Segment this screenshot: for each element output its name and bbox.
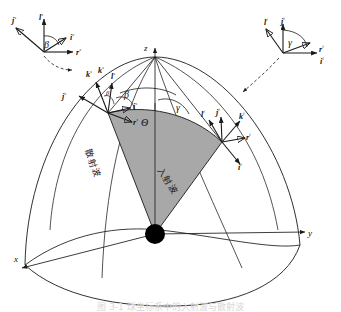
angle-label-beta-sphere: β xyxy=(124,90,129,100)
vector-label-l-s: ls xyxy=(111,72,115,81)
axis-label-z: z xyxy=(144,44,148,53)
inset-vector-label-l-s: ls xyxy=(39,13,43,22)
angle-label-beta-small: β xyxy=(106,90,109,97)
origin-dot xyxy=(145,224,165,244)
vector-label-r-i: ri xyxy=(246,133,251,142)
angle-label-gamma-inset: γ xyxy=(288,38,292,48)
vector-label-k-s: ks xyxy=(86,70,92,79)
inset-vector-label-k-s: ks xyxy=(98,66,104,75)
vector-label-k-i: ki xyxy=(239,112,244,121)
inset-vector-label-r-i: ri xyxy=(319,45,324,54)
inset-vector-label-j-s: js xyxy=(12,16,16,25)
figure-caption: 图 3-1 球坐标系中的入射波与散射波 xyxy=(0,300,341,312)
inset-vector-label-i-s: is xyxy=(70,33,74,42)
vector-label-i-s: is xyxy=(133,102,137,111)
inset-vector-label-j-i: ji xyxy=(281,17,285,26)
axis-label-x: x xyxy=(14,255,18,264)
angle-label-beta-inset: β xyxy=(44,40,49,50)
vector-label-r-s: rs xyxy=(133,118,138,127)
inset-vector-label-l-i: li xyxy=(264,18,268,27)
inset-incident-frame xyxy=(243,24,317,92)
vector-label-j-i: ji xyxy=(216,108,220,117)
angle-label-gamma-sphere: γ xyxy=(176,103,180,113)
vector-label-j-s: js xyxy=(62,92,66,101)
inset-vector-label-i-i: ii xyxy=(320,57,324,66)
vector-label-i-i: ii xyxy=(238,163,242,172)
inset-vector-label-r-s: rs xyxy=(76,48,81,57)
vector-label-l-i: li xyxy=(201,110,205,119)
axis-label-y: y xyxy=(308,229,312,238)
angle-label-theta: Θ xyxy=(141,118,148,128)
